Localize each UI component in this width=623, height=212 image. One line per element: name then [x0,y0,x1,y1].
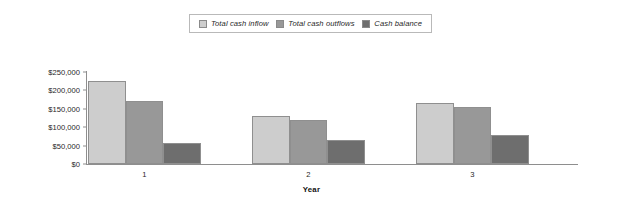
x-axis-tick-label: 1 [142,170,146,179]
legend-label-total-cash-outflows: Total cash outflows [288,19,354,28]
bar-total-cash-inflow-year-2[interactable] [252,116,290,164]
y-axis-tick: $100,000 [48,123,86,132]
chart-legend: Total cash inflow Total cash outflows Ca… [189,14,432,33]
legend-label-cash-balance: Cash balance [374,19,422,28]
y-axis-tick-label: $100,000 [48,123,80,132]
y-axis-tick: $250,000 [48,68,86,77]
legend-item-total-cash-outflows[interactable]: Total cash outflows [276,19,354,28]
y-axis-tick-label: $150,000 [48,104,80,113]
y-axis: $250,000 $200,000 $150,000 $100,000 $50,… [0,0,86,212]
x-axis-tick-label: 3 [470,170,474,179]
legend-label-total-cash-inflow: Total cash inflow [211,19,269,28]
y-axis-tick-label: $0 [72,160,80,169]
y-axis-tick-label: $200,000 [48,86,80,95]
legend-item-cash-balance[interactable]: Cash balance [362,19,422,28]
legend-swatch-cash-balance [362,20,370,28]
legend-swatch-total-cash-outflows [276,20,284,28]
legend-swatch-total-cash-inflow [199,20,207,28]
bar-chart: Total cash inflow Total cash outflows Ca… [0,0,623,212]
bar-total-cash-outflows-year-3[interactable] [454,107,492,164]
y-axis-tick-label: $250,000 [48,68,80,77]
bar-total-cash-outflows-year-2[interactable] [290,120,328,164]
y-axis-tick: $50,000 [53,141,86,150]
legend-item-total-cash-inflow[interactable]: Total cash inflow [199,19,269,28]
plot-area [86,72,578,164]
bar-cash-balance-year-3[interactable] [491,135,529,164]
x-axis-tick-label: 2 [306,170,310,179]
y-axis-tick: $0 [72,160,86,169]
bar-total-cash-inflow-year-3[interactable] [416,103,454,164]
x-axis-title: Year [0,185,623,194]
bar-total-cash-inflow-year-1[interactable] [88,81,126,164]
bar-cash-balance-year-2[interactable] [327,140,365,164]
y-axis-tick-label: $50,000 [53,141,80,150]
x-axis-line [86,164,578,165]
bar-total-cash-outflows-year-1[interactable] [126,101,164,164]
bar-cash-balance-year-1[interactable] [163,143,201,164]
y-axis-tick: $150,000 [48,104,86,113]
y-axis-tick: $200,000 [48,86,86,95]
